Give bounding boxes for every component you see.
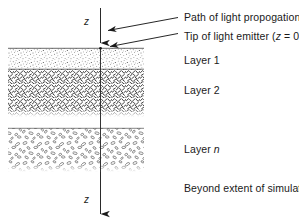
annotation-path-of-light-label: Path of light propogation (184, 12, 299, 23)
layer-1-slab (8, 48, 144, 69)
light-propagation-diagram: Path of light propogation Tip of light e… (0, 0, 299, 224)
beyond-extent-label: Beyond extent of simulation (184, 183, 299, 194)
z-axis-bottom-label: z (84, 195, 89, 205)
layer-n-label-prefix: Layer (184, 143, 214, 155)
layer-2-label-prefix: Layer (184, 84, 214, 96)
layer-1-label-index: 1 (214, 54, 220, 66)
layer-n-slab (8, 128, 144, 172)
annotation-tip-of-emitter-label: Tip of light emitter (z = 0) (184, 31, 299, 42)
tip-label-suffix: = 0) (281, 30, 299, 42)
tip-label-prefix: Tip of light emitter ( (184, 30, 276, 42)
emitter-tip-marker (99, 47, 102, 50)
layer-2-slab (8, 69, 144, 117)
layer-1-label-prefix: Layer (184, 54, 214, 66)
layer-2-label-index: 2 (214, 84, 220, 96)
layer-n-label: Layer n (184, 144, 220, 155)
layer-2-label: Layer 2 (184, 85, 220, 96)
layer-n-label-index: n (214, 143, 220, 155)
z-axis-top-label: z (84, 17, 89, 27)
layer-1-label: Layer 1 (184, 55, 220, 66)
